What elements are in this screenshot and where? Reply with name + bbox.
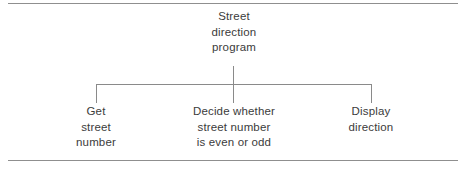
- diagram-node-display-direction: Display direction: [311, 104, 431, 135]
- node-root-line-1: Street: [159, 9, 309, 25]
- node-get-line-1: Get: [36, 104, 156, 120]
- node-decide-line-1: Decide whether: [159, 104, 309, 120]
- diagram-node-get-street-number: Get street number: [36, 104, 156, 151]
- node-decide-line-3: is even or odd: [159, 135, 309, 151]
- node-decide-line-2: street number: [159, 120, 309, 136]
- connector-drop-left: [96, 84, 97, 103]
- node-get-line-3: number: [36, 135, 156, 151]
- node-root-line-3: program: [159, 40, 309, 56]
- top-divider-rule: [8, 3, 458, 4]
- connector-drop-right: [371, 84, 372, 103]
- diagram-node-root: Street direction program: [159, 9, 309, 56]
- node-root-line-2: direction: [159, 25, 309, 41]
- connector-horizontal-bar: [96, 84, 372, 85]
- structure-chart-figure: Street direction program Get street numb…: [0, 0, 465, 170]
- bottom-divider-rule: [8, 160, 458, 161]
- node-get-line-2: street: [36, 120, 156, 136]
- diagram-node-decide-even-or-odd: Decide whether street number is even or …: [159, 104, 309, 151]
- node-display-line-2: direction: [311, 120, 431, 136]
- node-display-line-1: Display: [311, 104, 431, 120]
